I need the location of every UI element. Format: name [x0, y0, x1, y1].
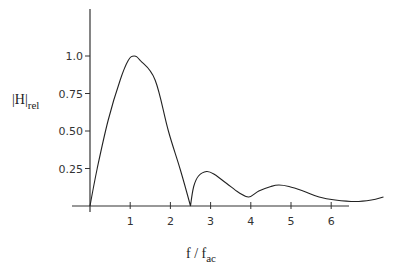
y-tick-label: 0.50 — [59, 125, 84, 138]
y-axis-label-main: |H| — [12, 92, 28, 107]
y-axis-label: |H|rel — [12, 92, 39, 111]
y-ticks: 0.250.500.751.0 — [59, 50, 91, 176]
y-tick-label: 0.75 — [59, 88, 84, 101]
y-tick-label: 0.25 — [59, 163, 84, 176]
x-tick-label: 6 — [328, 215, 335, 228]
x-axis-label-main: f / f — [186, 246, 207, 261]
x-tick-label: 4 — [247, 215, 254, 228]
frequency-response-chart: 0.250.500.751.0 123456 |H|rel f / fac — [0, 0, 395, 276]
y-axis-label-sub: rel — [28, 99, 40, 111]
x-axis-label-sub: ac — [206, 252, 216, 264]
x-axis-label: f / fac — [186, 246, 216, 264]
x-tick-label: 2 — [167, 215, 174, 228]
response-curve — [90, 56, 384, 206]
y-tick-label: 1.0 — [66, 50, 84, 63]
x-tick-label: 1 — [127, 215, 134, 228]
x-tick-label: 5 — [288, 215, 295, 228]
x-tick-label: 3 — [207, 215, 214, 228]
